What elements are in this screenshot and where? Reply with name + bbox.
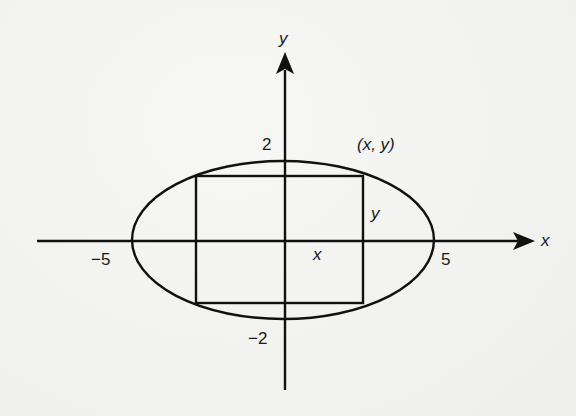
tick-x-pos: 5 [441,251,450,268]
rect-half-height-label: y [371,205,380,222]
tick-y-neg: −2 [248,330,267,347]
point-label: (x, y) [357,136,395,153]
rect-half-width-label: x [313,246,322,263]
ellipse-diagram [0,0,576,416]
diagram-canvas: y x 2 −2 −5 5 (x, y) y x [0,0,576,416]
tick-x-neg: −5 [91,251,110,268]
tick-y-pos: 2 [262,136,271,153]
inscribed-rectangle [196,176,363,303]
x-axis-label: x [541,232,550,249]
y-axis-label: y [279,30,288,47]
